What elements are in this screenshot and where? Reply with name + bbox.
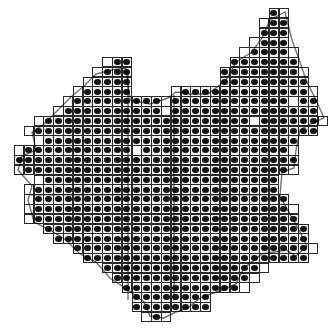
record-dot-icon: [74, 245, 81, 251]
record-dot-icon: [172, 275, 179, 281]
record-dot-icon: [182, 245, 189, 251]
record-dot-icon: [261, 128, 268, 134]
record-dot-icon: [84, 118, 91, 124]
record-dot-icon: [133, 275, 140, 281]
record-dot-icon: [123, 255, 130, 261]
record-dot-icon: [65, 157, 72, 163]
record-dot-icon: [123, 236, 130, 242]
record-dot-icon: [221, 147, 228, 153]
record-dot-icon: [133, 108, 140, 114]
record-dot-icon: [251, 79, 258, 85]
record-dot-icon: [280, 69, 287, 75]
record-dot-icon: [45, 226, 52, 232]
record-dot-icon: [133, 265, 140, 271]
record-dot-icon: [94, 206, 101, 212]
record-dot-icon: [123, 59, 130, 65]
record-dot-icon: [163, 265, 170, 271]
record-dot-icon: [114, 206, 121, 212]
record-dot-icon: [270, 245, 277, 251]
record-dot-icon: [221, 79, 228, 85]
record-dot-icon: [212, 255, 219, 261]
record-dot-icon: [280, 108, 287, 114]
record-dot-icon: [104, 128, 111, 134]
record-dot-icon: [172, 196, 179, 202]
record-dot-icon: [261, 108, 268, 114]
record-dot-icon: [290, 236, 297, 242]
record-dot-icon: [251, 196, 258, 202]
record-dot-icon: [133, 216, 140, 222]
record-dot-icon: [221, 138, 228, 144]
record-dot-icon: [182, 89, 189, 95]
record-dot-icon: [221, 108, 228, 114]
record-dot-icon: [231, 245, 238, 251]
record-dot-icon: [221, 196, 228, 202]
record-dot-icon: [65, 236, 72, 242]
record-dot-icon: [84, 216, 91, 222]
record-dot-icon: [310, 128, 317, 134]
record-dot-icon: [221, 177, 228, 183]
record-dot-icon: [251, 89, 258, 95]
record-dot-icon: [280, 226, 287, 232]
record-dot-icon: [172, 167, 179, 173]
record-dot-icon: [251, 108, 258, 114]
record-dot-icon: [182, 138, 189, 144]
record-dot-icon: [143, 157, 150, 163]
record-dot-icon: [163, 226, 170, 232]
record-dot-icon: [192, 167, 199, 173]
record-dot-icon: [261, 187, 268, 193]
record-dot-icon: [300, 128, 307, 134]
record-dot-icon: [172, 206, 179, 212]
record-dot-icon: [300, 236, 307, 242]
record-dot-icon: [280, 40, 287, 46]
record-dot-icon: [221, 98, 228, 104]
record-dot-icon: [280, 128, 287, 134]
record-dot-icon: [25, 157, 32, 163]
record-dot-icon: [182, 98, 189, 104]
record-dot-icon: [290, 216, 297, 222]
record-dot-icon: [182, 275, 189, 281]
record-dot-icon: [55, 206, 62, 212]
record-dot-icon: [231, 216, 238, 222]
record-dot-icon: [221, 69, 228, 75]
record-dot-icon: [163, 118, 170, 124]
record-dot-icon: [192, 98, 199, 104]
record-dot-icon: [261, 30, 268, 36]
record-dot-icon: [202, 118, 209, 124]
record-dot-icon: [114, 69, 121, 75]
record-dot-icon: [114, 118, 121, 124]
record-dot-icon: [172, 285, 179, 291]
record-dot-icon: [300, 118, 307, 124]
record-dot-icon: [251, 128, 258, 134]
record-dot-icon: [104, 245, 111, 251]
record-dot-icon: [212, 89, 219, 95]
distribution-map: [0, 0, 335, 335]
record-dot-icon: [104, 206, 111, 212]
record-dot-icon: [65, 138, 72, 144]
record-dot-icon: [261, 255, 268, 261]
record-dot-icon: [231, 226, 238, 232]
record-dot-icon: [55, 216, 62, 222]
record-dot-icon: [310, 118, 317, 124]
record-dot-icon: [221, 157, 228, 163]
record-dot-icon: [212, 118, 219, 124]
record-dot-icon: [74, 147, 81, 153]
record-dot-icon: [261, 157, 268, 163]
record-dot-icon: [94, 118, 101, 124]
record-dot-icon: [163, 128, 170, 134]
record-dot-icon: [261, 118, 268, 124]
record-dot-icon: [133, 157, 140, 163]
record-dot-icon: [104, 138, 111, 144]
record-dot-icon: [74, 177, 81, 183]
record-dot-icon: [182, 304, 189, 310]
record-dot-icon: [192, 304, 199, 310]
record-dot-icon: [192, 196, 199, 202]
record-dot-icon: [74, 98, 81, 104]
record-dot-icon: [192, 89, 199, 95]
record-dot-icon: [45, 157, 52, 163]
record-dot-icon: [192, 236, 199, 242]
record-dot-icon: [290, 118, 297, 124]
record-dot-icon: [241, 59, 248, 65]
grid-square-empty: [288, 165, 298, 175]
record-dot-icon: [241, 226, 248, 232]
record-dot-icon: [212, 226, 219, 232]
